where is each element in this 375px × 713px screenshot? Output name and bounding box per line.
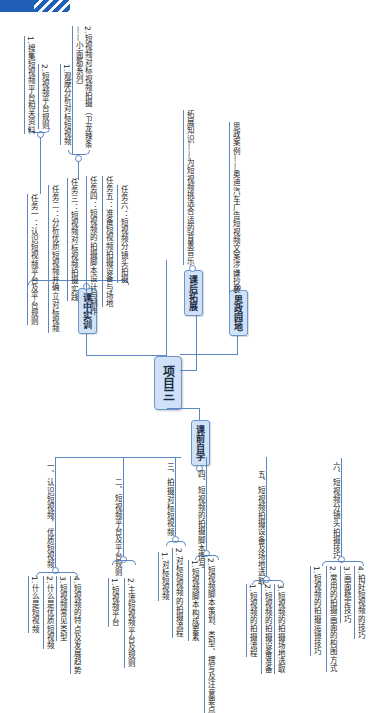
center-node: 项目三	[154, 356, 182, 410]
connector-section-3	[175, 457, 176, 537]
connector-section-6	[341, 458, 342, 558]
ideology-item: 思政案例——奥迪汽车广告短视频文案涉嫌抄袭	[229, 122, 240, 293]
section-6-item-3: 3.画面稳定技巧	[340, 566, 351, 623]
connector-in-class-v	[86, 332, 87, 356]
connector-center-up	[166, 260, 167, 356]
section-2-bracket	[112, 560, 136, 565]
section-6-item-4: 4.拍好短视频的技巧	[354, 566, 365, 639]
connector-section-4	[206, 457, 207, 555]
task-6: 任务六：短视频分镜头拍摄	[117, 185, 128, 283]
section-5-item-1: 1.短视频的拍摄流程	[246, 584, 257, 657]
section-1-item-4: 4.短视频的特点及发展趋势	[70, 576, 81, 674]
task-2: 任务二：分析优质短视频并确立对标视频	[48, 185, 59, 333]
header-hatch-decoration	[34, 0, 70, 12]
after-class-label: 课后拓展	[187, 275, 200, 311]
connector-task1-sub	[40, 136, 41, 194]
connector-section-2	[123, 457, 124, 557]
task3-sub-1: 1.观摩分析对标短视频	[60, 64, 71, 145]
section-6-item-1: 1.短视频的拍摄运镜技巧	[310, 566, 321, 656]
section-1-title: 一、认识短视频，优质短视频	[45, 462, 54, 569]
connector-to-in-class	[86, 355, 167, 356]
section-1-item-1: 1.什么是短视频	[28, 576, 39, 633]
branch-after-class: 课后拓展	[184, 270, 203, 316]
task-3: 任务三：短视频对标视频拍摄实践	[67, 178, 78, 301]
in-class-bracket	[28, 280, 129, 285]
connector-to-after	[180, 370, 196, 371]
connector-after-v	[196, 315, 197, 371]
connector-section-5	[266, 457, 267, 577]
section-5-item-3: 3.短视频的拍摄场地选取	[274, 584, 285, 674]
section-1-item-2: 2.什么是优质短视频	[43, 576, 54, 649]
expand-dot-after-class[interactable]	[189, 265, 196, 272]
section-3-bracket	[166, 541, 186, 546]
section-6-item-2: 2.常用的拍摄画面的构图方式	[326, 566, 337, 672]
task-1: 任务一：认识短视频平台及平台规则	[27, 194, 38, 325]
pre-class-spine	[55, 457, 181, 458]
connector-pre-v	[199, 408, 200, 420]
section-4-item-2: 2.短视频脚本策划、类型、撰写及注意要点	[204, 558, 215, 713]
branch-ideology: 思政园地	[229, 290, 248, 336]
section-3-title: 三、拍摄对标短视频	[165, 462, 174, 536]
branch-pre-class: 课前自学	[191, 420, 210, 466]
section-5-title: 五、短视频拍摄设备及场地选取	[256, 470, 265, 585]
center-label: 项目三	[160, 365, 177, 401]
connector-task3-sub	[78, 160, 79, 180]
connector-to-ideology	[180, 354, 237, 355]
ideology-label: 思政园地	[232, 295, 245, 331]
section-4-item-1: 1.短视频脚本构成要素	[188, 560, 199, 641]
section-6-title: 六、短视频分镜头拍摄技巧	[331, 462, 340, 560]
section-2-item-2: 2.主流短视频平台及规则	[124, 578, 135, 668]
task1-sub-1: 1.搜集短视频平台相关资料	[24, 36, 35, 134]
section-1-item-3: 3.短视频常见类型	[56, 576, 67, 641]
connector-section-1	[55, 457, 56, 570]
task1-sub-2: 2.短视频平台规则	[38, 64, 49, 129]
pre-class-label: 课前自学	[194, 425, 207, 461]
connector-to-pre	[167, 408, 199, 409]
task-4: 任务四：短视频的拍摄脚本设计与制作	[86, 176, 97, 315]
task3-sub-2: 2.短视频对标视频拍摄（卫龙辣条——小面筋系列）	[72, 26, 92, 154]
expand-dot-task3[interactable]	[75, 155, 82, 162]
section-5-item-2: 2.短视频的拍摄设备准备	[261, 584, 272, 674]
task-5: 任务五：准备短视频拍摄设备与场地	[102, 176, 113, 307]
section-3-item-1: 1.对标短视频	[158, 552, 169, 601]
after-class-item: 拓展知识——为短视频挑选合适的背景音乐	[183, 110, 194, 265]
connector-ideology-v	[237, 334, 238, 355]
section-3-item-2: 2.对标短视频的拍摄流程	[172, 548, 183, 638]
section-2-item-1: 1.短视频平台	[108, 578, 119, 627]
